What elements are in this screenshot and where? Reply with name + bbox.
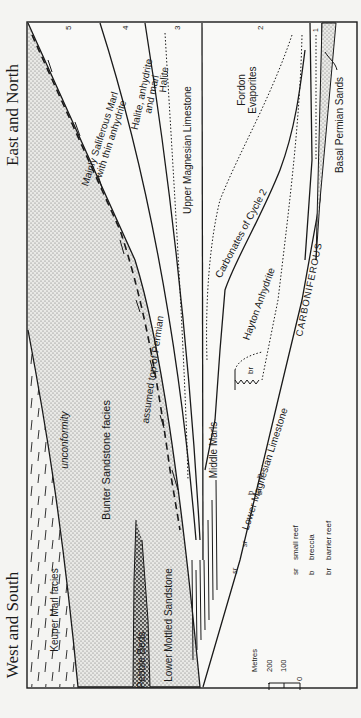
legend-sr-meaning: small reef: [291, 525, 300, 560]
label-keuper-marl: Keuper Marl facies: [49, 568, 60, 651]
label-unconformity: unconformity: [59, 410, 70, 468]
symbol-b-2: b: [255, 473, 264, 478]
geological-cross-section: East and North West and South 5 4 3 2 1 …: [0, 0, 361, 718]
cycle-number-2: 2: [256, 25, 265, 30]
scale-tick-200: 200: [265, 659, 274, 672]
label-fordon-2: Evaporites: [247, 66, 258, 113]
scale-tick-0: 0: [295, 677, 304, 681]
symbol-sr-2: sr: [230, 567, 239, 574]
label-middle-marls: Middle Marls: [208, 422, 219, 479]
scale-tick-100: 100: [279, 659, 288, 672]
cycle-number-1: 1: [312, 28, 319, 32]
label-upper-magnesian: Upper Magnesian Limestone: [182, 86, 193, 214]
symbol-br: br: [246, 367, 255, 374]
label-pebble-beds: Pebble Beds: [136, 632, 147, 689]
cycle-number-4: 4: [121, 25, 130, 30]
direction-west-south: West and South: [3, 571, 22, 678]
label-basal-permian: Basal Permian Sands: [334, 77, 345, 173]
symbol-sr-1: sr: [240, 540, 249, 547]
legend-b-abbr: b: [307, 570, 316, 575]
cycle-number-5: 5: [64, 25, 73, 30]
legend-b-meaning: breccia: [307, 534, 316, 560]
cycle-number-3: 3: [173, 25, 182, 30]
label-bunter: Bunter Sandstone facies: [100, 400, 112, 520]
symbol-b-3: b: [246, 490, 255, 495]
label-lower-mottled: Lower Mottled Sandstone: [163, 568, 174, 682]
legend-br-abbr: br: [324, 568, 333, 575]
label-fordon-1: Fordon: [236, 74, 247, 106]
scale-title: Metres: [250, 649, 259, 672]
legend-br-meaning: barrier reef: [324, 520, 333, 560]
symbol-b-1: b: [255, 490, 264, 495]
label-halite: Halite: [157, 66, 170, 93]
direction-east-north: East and North: [3, 64, 22, 166]
legend-sr-abbr: sr: [291, 568, 300, 575]
